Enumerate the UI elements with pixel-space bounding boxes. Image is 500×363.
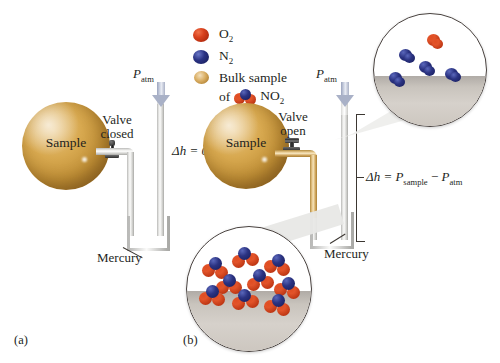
valve-label-a-line1: Valve [94,113,140,127]
n2-molecule [424,66,435,76]
p-atm-arrow-a [151,82,170,108]
inset-no2-above-mercury [186,226,312,352]
valve-label-b: Valve open [272,110,314,138]
delta-h-equation-b: Δh = Psample − Patm [366,169,462,187]
no2-molecule [232,289,258,309]
valve-label-a-line2: closed [94,127,140,141]
valve-label-b-line1: Valve [272,110,314,124]
no2-molecule [232,247,258,267]
delta-h-tick-b [356,177,364,178]
n2-molecule [404,53,415,63]
no2-molecule [199,285,225,305]
panel-a: Sample Valve closed Patm [0,0,192,363]
p-atm-label-a: Patm [133,66,154,84]
no2-molecule [247,269,273,289]
valve-label-b-line2: open [272,124,314,138]
n2-molecule [394,77,405,87]
p-atm-label-b: Patm [316,66,337,84]
mercury-surface-top-inset [374,76,486,126]
mercury-label-a: Mercury [97,250,142,266]
valve-label-a: Valve closed [94,113,140,141]
tube-right-arm-a [157,100,164,236]
o2-molecule [432,39,443,49]
no2-molecule [264,294,290,314]
panel-label-a: (a) [14,333,28,348]
manometer-figure: O2 N2 Bulk sample of NO2 [0,0,500,363]
inset-air-above-mercury [373,13,487,127]
